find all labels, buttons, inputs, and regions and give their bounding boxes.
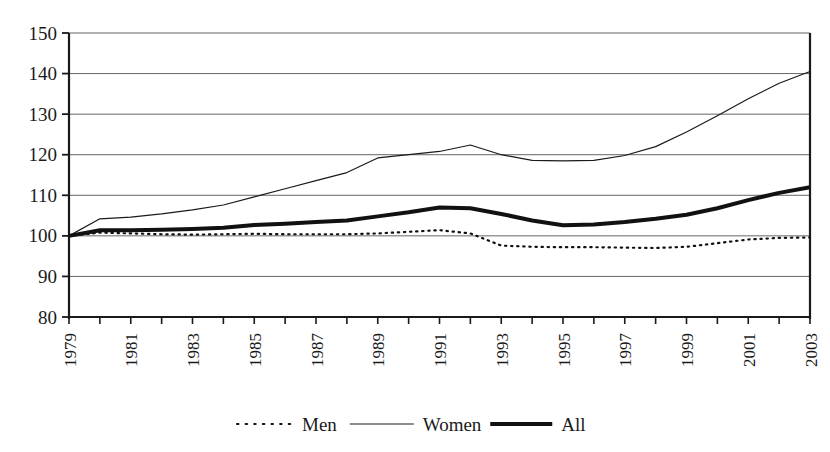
x-tick-label: 1997 [616, 333, 635, 368]
chart-canvas: 8090100110120130140150 19791981198319851… [0, 0, 830, 452]
line-chart-figure: 8090100110120130140150 19791981198319851… [0, 0, 830, 452]
y-tick-label: 150 [29, 23, 58, 44]
x-tick-label: 1993 [493, 333, 512, 367]
x-tick-label: 1999 [678, 333, 697, 367]
x-tick-label: 2003 [802, 333, 821, 367]
y-tick-label: 120 [29, 144, 58, 165]
x-tick-label: 1979 [61, 333, 80, 367]
legend-label-men: Men [302, 414, 337, 435]
y-tick-label: 100 [29, 225, 58, 246]
y-tick-label: 140 [29, 63, 58, 84]
y-tick-label: 110 [29, 185, 57, 206]
x-tick-label: 1989 [369, 333, 388, 367]
y-tick-label: 80 [38, 307, 57, 328]
x-tick-label: 1991 [431, 333, 450, 367]
y-tick-label: 130 [29, 104, 58, 125]
x-tick-label: 1995 [555, 333, 574, 367]
x-tick-label: 2001 [740, 333, 759, 367]
legend-label-women: Women [423, 414, 482, 435]
x-tick-label: 1987 [308, 333, 327, 368]
y-tick-label: 90 [38, 266, 57, 287]
x-tick-label: 1985 [246, 333, 265, 367]
legend-label-all: All [561, 414, 585, 435]
chart-background [0, 0, 830, 452]
x-tick-label: 1983 [184, 333, 203, 367]
x-tick-label: 1981 [122, 333, 141, 367]
